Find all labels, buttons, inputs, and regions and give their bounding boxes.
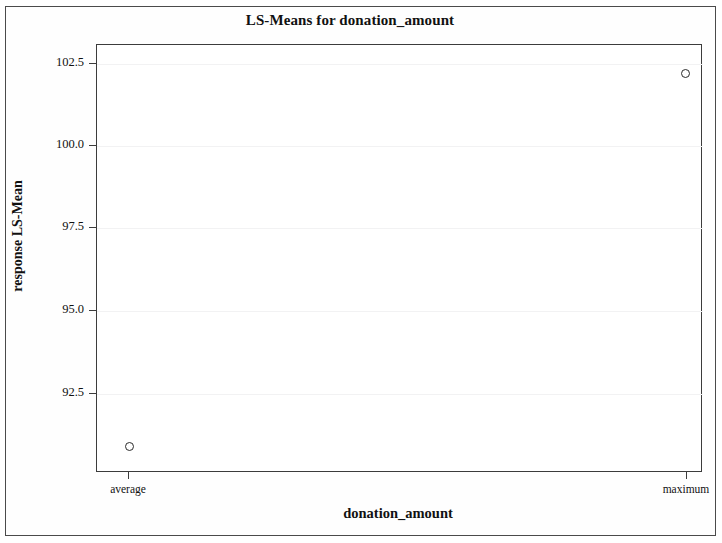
gridline-102-5 <box>97 64 703 65</box>
data-point-average <box>125 442 134 451</box>
y-tick-label-97-5: 97.5 <box>40 219 84 234</box>
y-tick-mark-97-5 <box>89 227 96 228</box>
gridline-95-0 <box>97 311 703 312</box>
y-tick-label-92-5: 92.5 <box>40 385 84 400</box>
y-tick-label-100-0: 100.0 <box>40 137 84 152</box>
x-tick-mark-average <box>128 472 129 479</box>
gridline-97-5 <box>97 228 703 229</box>
x-tick-label-maximum: maximum <box>626 483 722 495</box>
y-tick-label-102-5: 102.5 <box>40 55 84 70</box>
data-point-maximum <box>681 69 690 78</box>
x-axis-title: donation_amount <box>298 505 498 522</box>
y-tick-label-95-0: 95.0 <box>40 302 84 317</box>
chart-title: LS-Means for donation_amount <box>0 12 700 29</box>
plot-area <box>97 45 703 473</box>
x-tick-label-average: average <box>68 483 188 495</box>
y-tick-mark-100-0 <box>89 145 96 146</box>
y-tick-mark-95-0 <box>89 310 96 311</box>
ls-means-chart-figure: LS-Means for donation_amount 102.5 100.0… <box>0 0 722 543</box>
gridline-100-0 <box>97 146 703 147</box>
y-axis-title: response LS-Mean <box>10 126 26 346</box>
x-tick-mark-maximum <box>686 472 687 479</box>
y-tick-mark-92-5 <box>89 393 96 394</box>
gridline-92-5 <box>97 394 703 395</box>
plot-frame <box>96 44 702 472</box>
y-tick-mark-102-5 <box>89 63 96 64</box>
